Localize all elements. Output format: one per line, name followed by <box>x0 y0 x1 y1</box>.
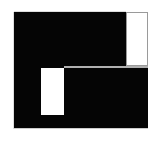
top-right-box-cutout <box>126 12 148 66</box>
shape-layer <box>0 0 155 145</box>
lower-left-notch-cutout <box>41 68 64 115</box>
bottom-edge-shadow <box>14 128 148 129</box>
horizontal-seam-line <box>64 66 148 68</box>
image-canvas <box>0 0 155 145</box>
